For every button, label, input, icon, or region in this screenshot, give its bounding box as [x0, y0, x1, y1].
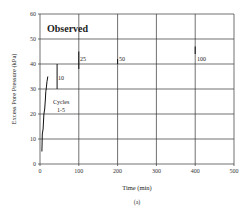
annotation-cycles-label: Cycles [53, 99, 70, 105]
annotation-cycle-25: 25 [80, 56, 86, 62]
y-tick-label: 10 [30, 136, 36, 142]
chart: 01002003004005000102030405060 Observed 1… [0, 0, 252, 220]
annotation-cycle-10: 10 [58, 75, 64, 81]
annotation-cycle-100: 100 [197, 56, 206, 62]
x-tick-label: 400 [191, 168, 200, 174]
annotation-cycle-50: 50 [119, 56, 125, 62]
x-tick-label: 100 [74, 168, 83, 174]
y-axis-label: Excess Pore Pressure (kPa) [10, 54, 18, 125]
y-tick-label: 40 [30, 61, 36, 67]
y-tick-label: 30 [30, 86, 36, 92]
observed-label: Observed [47, 23, 89, 34]
annotation-cycles-range: 1-5 [57, 107, 65, 113]
x-tick-label: 300 [152, 168, 161, 174]
y-tick-label: 20 [30, 111, 36, 117]
x-tick-label: 0 [39, 168, 42, 174]
y-tick-label: 60 [30, 11, 36, 17]
y-tick-label: 50 [30, 36, 36, 42]
y-tick-label: 0 [33, 161, 36, 167]
x-axis-label: Time (min) [122, 184, 152, 192]
grid [38, 14, 234, 166]
tick-labels: 01002003004005000102030405060 [30, 11, 239, 174]
panel-label: (a) [134, 199, 141, 206]
x-tick-label: 200 [113, 168, 122, 174]
x-tick-label: 500 [230, 168, 239, 174]
